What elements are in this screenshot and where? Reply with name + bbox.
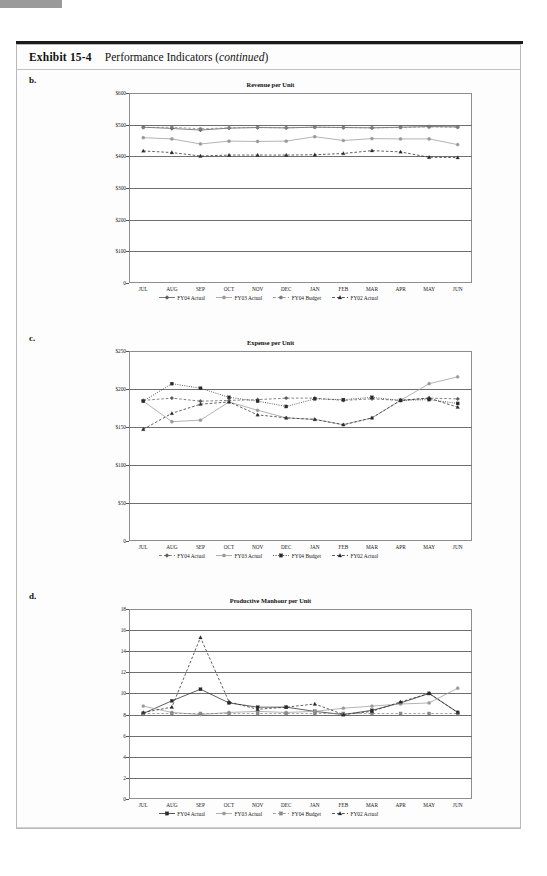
plot-area: 0$100$200$300$400$500$600JULAUGSEPOCTNOV… bbox=[129, 93, 472, 283]
x-axis-label: JUN bbox=[453, 544, 463, 550]
legend-item: FY02 Actual bbox=[332, 552, 378, 559]
panel-letter: d. bbox=[29, 591, 36, 601]
legend-marker-icon bbox=[216, 552, 232, 559]
y-axis-label: 10 bbox=[121, 690, 126, 696]
legend-marker-icon bbox=[273, 810, 289, 817]
x-axis-label: MAY bbox=[423, 802, 435, 808]
exhibit-frame: Exhibit 15-4 Performance Indicators (con… bbox=[16, 44, 521, 829]
data-point bbox=[370, 396, 373, 399]
data-point bbox=[170, 137, 173, 140]
x-axis-label: SEP bbox=[196, 544, 205, 550]
x-axis-label: DEC bbox=[281, 802, 292, 808]
data-point bbox=[227, 396, 230, 399]
data-point bbox=[256, 712, 259, 715]
data-point bbox=[456, 156, 460, 159]
data-point bbox=[170, 712, 173, 715]
legend-item: FY03 Actual bbox=[216, 294, 262, 301]
chart-legend: FY04 ActualFY03 ActualFY04 BudgetFY02 Ac… bbox=[17, 294, 520, 301]
data-point bbox=[227, 712, 230, 715]
x-axis-label: DEC bbox=[281, 544, 292, 550]
y-tick-mark bbox=[126, 283, 129, 284]
x-axis-label: FEB bbox=[339, 286, 349, 292]
x-axis-label: AUG bbox=[166, 286, 177, 292]
x-axis-label: MAR bbox=[366, 286, 378, 292]
data-point bbox=[199, 636, 203, 639]
y-axis-label: $200 bbox=[115, 217, 126, 223]
legend-item: FY04 Budget bbox=[273, 552, 321, 559]
legend-label: FY03 Actual bbox=[235, 295, 263, 301]
x-axis-label: OCT bbox=[224, 544, 235, 550]
data-point bbox=[399, 137, 402, 140]
x-axis-label: DEC bbox=[281, 286, 292, 292]
legend-marker-icon bbox=[216, 294, 232, 301]
y-axis-label: 0 bbox=[123, 538, 126, 544]
data-point bbox=[227, 140, 230, 143]
data-point bbox=[141, 427, 145, 430]
data-point bbox=[342, 398, 345, 401]
data-point bbox=[399, 712, 402, 715]
chart-title: Productive Manhour per Unit bbox=[69, 597, 472, 604]
y-axis-label: $250 bbox=[115, 348, 126, 354]
exhibit-title-tail: ) bbox=[264, 51, 268, 63]
y-axis-label: $500 bbox=[115, 122, 126, 128]
legend-marker-icon bbox=[273, 552, 289, 559]
chart-legend: FY04 ActualFY03 ActualFY04 BudgetFY02 Ac… bbox=[17, 552, 520, 559]
legend-label: FY04 Budget bbox=[292, 553, 321, 559]
legend-label: FY02 Actual bbox=[350, 811, 378, 817]
x-axis-label: AUG bbox=[166, 544, 177, 550]
series-line bbox=[143, 151, 457, 158]
y-axis-label: $200 bbox=[115, 386, 126, 392]
x-axis-label: SEP bbox=[196, 802, 205, 808]
y-tick-mark bbox=[126, 799, 129, 800]
legend-label: FY04 Budget bbox=[292, 811, 321, 817]
data-point bbox=[284, 396, 288, 400]
exhibit-bottom-rule bbox=[17, 827, 520, 828]
y-axis-label: $50 bbox=[118, 500, 126, 506]
data-point bbox=[456, 143, 459, 146]
legend-item: FY04 Budget bbox=[273, 294, 321, 301]
x-axis-label: JAN bbox=[310, 544, 320, 550]
data-point bbox=[285, 140, 288, 143]
y-axis-label: 2 bbox=[123, 775, 126, 781]
data-point bbox=[227, 126, 230, 129]
legend-item: FY03 Actual bbox=[216, 552, 262, 559]
data-point bbox=[199, 142, 202, 145]
y-axis-label: $100 bbox=[115, 462, 126, 468]
y-axis-label: 4 bbox=[123, 754, 126, 760]
data-point bbox=[313, 126, 316, 129]
data-point bbox=[456, 126, 459, 129]
data-point bbox=[170, 705, 174, 708]
exhibit-title-main: Performance Indicators ( bbox=[105, 51, 219, 63]
data-point bbox=[428, 382, 431, 385]
data-point bbox=[256, 409, 259, 412]
x-axis-label: MAY bbox=[423, 286, 435, 292]
data-point bbox=[428, 701, 431, 704]
data-point bbox=[285, 126, 288, 129]
y-axis-label: $600 bbox=[115, 90, 126, 96]
y-axis-label: $400 bbox=[115, 153, 126, 159]
data-point bbox=[256, 126, 259, 129]
data-point bbox=[199, 387, 202, 390]
legend-marker-icon bbox=[159, 810, 175, 817]
x-axis-label: APR bbox=[395, 286, 405, 292]
data-point bbox=[199, 712, 202, 715]
data-point bbox=[370, 137, 373, 140]
data-point bbox=[170, 396, 174, 400]
data-point bbox=[370, 704, 373, 707]
data-point bbox=[428, 712, 431, 715]
series-line bbox=[143, 398, 457, 401]
panel-letter: b. bbox=[29, 75, 36, 85]
exhibit-number: Exhibit 15-4 bbox=[29, 51, 92, 63]
data-point bbox=[342, 707, 345, 710]
legend-item: FY02 Actual bbox=[332, 294, 378, 301]
legend-marker-icon bbox=[332, 294, 348, 301]
x-axis-label: NOV bbox=[252, 802, 263, 808]
x-axis-label: APR bbox=[395, 802, 405, 808]
data-point bbox=[256, 400, 259, 403]
data-point bbox=[256, 140, 259, 143]
data-point bbox=[199, 127, 202, 130]
legend-label: FY02 Actual bbox=[350, 553, 378, 559]
legend-label: FY02 Actual bbox=[350, 295, 378, 301]
legend-item: FY02 Actual bbox=[332, 810, 378, 817]
page-edge-marker bbox=[0, 0, 62, 8]
